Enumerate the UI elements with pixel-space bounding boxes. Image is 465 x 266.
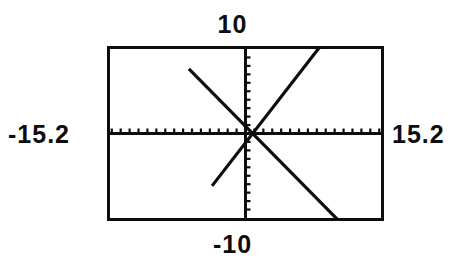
plot-decreasing-line bbox=[189, 69, 377, 218]
calculator-screenshot: 10 -15.2 15.2 -10 bbox=[0, 0, 465, 266]
window-xmin-label: -15.2 bbox=[8, 122, 70, 147]
graph-viewport bbox=[107, 46, 384, 221]
graph-plot bbox=[110, 49, 381, 218]
window-ymax-label: 10 bbox=[0, 12, 465, 37]
axis-layer bbox=[110, 49, 381, 218]
window-xmax-label: 15.2 bbox=[392, 122, 445, 147]
plot-increasing-line bbox=[212, 49, 335, 186]
window-ymin-label: -10 bbox=[0, 232, 465, 257]
